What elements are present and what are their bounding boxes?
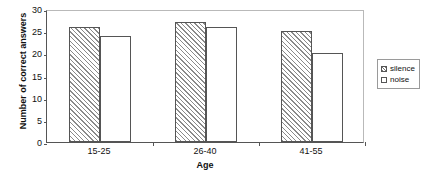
legend-label: silence	[390, 64, 415, 73]
y-axis-tick-label: 25	[32, 27, 42, 37]
bar-silence-26-40	[175, 22, 206, 142]
y-axis-tick-label: 10	[32, 94, 42, 104]
legend-swatch-noise	[381, 77, 387, 83]
x-axis-tick-label: 15-25	[87, 146, 110, 156]
y-axis-tick-mark	[44, 78, 47, 79]
x-axis-tick-label: 26-40	[193, 146, 216, 156]
bar-noise-26-40	[206, 27, 237, 142]
legend-swatch-silence	[381, 66, 387, 72]
y-axis-tick-mark	[44, 144, 47, 145]
x-axis-tick-label: 41-55	[299, 146, 322, 156]
y-axis-tick-label: 30	[32, 5, 42, 15]
y-axis-tick-mark	[44, 122, 47, 123]
x-axis-title: Age	[46, 160, 364, 170]
bar-series-container	[47, 11, 363, 142]
legend-item-noise: noise	[381, 74, 415, 85]
bar-chart: Number of correct answers 051015202530 1…	[0, 0, 433, 178]
y-axis-tick-label: 0	[37, 138, 42, 148]
x-axis-tick-mark	[365, 142, 366, 146]
plot-area	[46, 10, 364, 143]
bar-silence-41-55	[281, 31, 312, 142]
y-axis-tick-label: 15	[32, 72, 42, 82]
y-axis-tick-labels: 051015202530	[22, 9, 42, 143]
y-axis-tick-label: 5	[37, 116, 42, 126]
y-axis-tick-mark	[44, 100, 47, 101]
chart-legend: silencenoise	[377, 59, 420, 89]
legend-item-silence: silence	[381, 63, 415, 74]
y-axis-tick-mark	[44, 11, 47, 12]
x-axis-tick-labels: 15-2526-4041-55	[46, 146, 364, 160]
y-axis-tick-mark	[44, 55, 47, 56]
bar-silence-15-25	[69, 27, 100, 142]
bar-noise-41-55	[312, 53, 343, 142]
y-axis-tick-label: 20	[32, 49, 42, 59]
bar-noise-15-25	[100, 36, 131, 142]
y-axis-tick-mark	[44, 33, 47, 34]
legend-label: noise	[390, 75, 409, 84]
